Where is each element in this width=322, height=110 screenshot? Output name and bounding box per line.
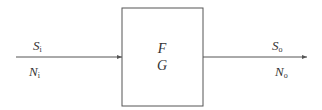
output-signal-label: So [272, 38, 283, 54]
block-label-f: F [157, 41, 167, 56]
block-label-g: G [157, 58, 167, 73]
system-block [122, 8, 203, 106]
input-signal-label: Si [33, 38, 43, 54]
input-noise-label: Ni [28, 64, 41, 80]
output-noise-label: No [274, 64, 288, 80]
block-diagram: Si Ni F G So No [0, 0, 322, 110]
